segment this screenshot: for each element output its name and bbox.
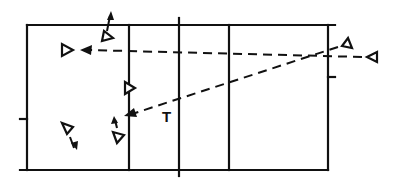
ball-target-label: T [162, 108, 171, 125]
pass-arrowhead-2 [124, 108, 137, 117]
player-icon [367, 52, 377, 62]
move-arrowhead-up-icon [111, 116, 118, 124]
player-icon [62, 44, 73, 56]
court-svg: T [0, 0, 395, 185]
pass-line-2 [132, 47, 338, 114]
pass-arrowhead-1 [80, 45, 92, 55]
player-icon [62, 123, 73, 134]
move-arrowhead-up-icon [107, 11, 114, 20]
player-icon [113, 132, 124, 143]
player-icon [125, 82, 135, 94]
player-icon [102, 31, 113, 41]
player-icon [342, 38, 352, 48]
